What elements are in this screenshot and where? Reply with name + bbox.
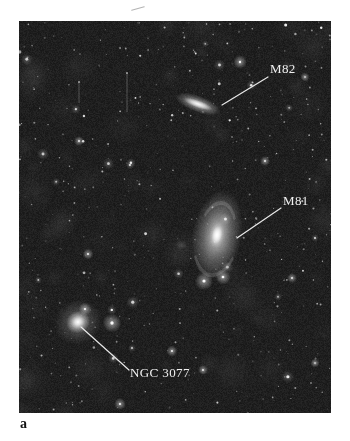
figure-page: M82M81NGC 3077 a [0, 0, 350, 441]
starfield-canvas [19, 21, 331, 413]
galaxy-label-m81: M81 [283, 194, 309, 208]
galaxy-label-ngc3077: NGC 3077 [130, 366, 190, 380]
astro-photograph: M82M81NGC 3077 [19, 21, 331, 413]
scratch-mark [131, 6, 145, 11]
galaxy-label-m82: M82 [270, 62, 296, 76]
panel-label: a [20, 416, 27, 432]
